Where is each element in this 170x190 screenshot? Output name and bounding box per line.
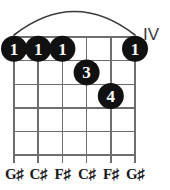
finger-dot: 1 xyxy=(49,36,75,62)
note-label: G♯ xyxy=(122,166,148,182)
finger-number: 1 xyxy=(34,40,43,59)
note-label: F♯ xyxy=(98,166,124,182)
finger-dot: 1 xyxy=(25,36,51,62)
note-label: G♯ xyxy=(1,166,27,182)
note-label: C♯ xyxy=(25,166,51,182)
finger-number: 3 xyxy=(82,63,91,82)
note-label: F♯ xyxy=(49,166,75,182)
fret-position-label: IV xyxy=(143,25,159,44)
finger-number: 1 xyxy=(10,40,19,59)
finger-dot: 4 xyxy=(98,83,124,109)
finger-number: 4 xyxy=(107,87,116,106)
barre-arc xyxy=(14,12,135,36)
finger-dot: 3 xyxy=(74,59,100,85)
finger-dot: 1 xyxy=(1,36,27,62)
finger-number: 1 xyxy=(58,40,67,59)
finger-number: 1 xyxy=(131,40,140,59)
guitar-chord-diagram: 111134 IV G♯C♯F♯C♯F♯G♯ xyxy=(0,0,170,190)
note-label: C♯ xyxy=(74,166,100,182)
